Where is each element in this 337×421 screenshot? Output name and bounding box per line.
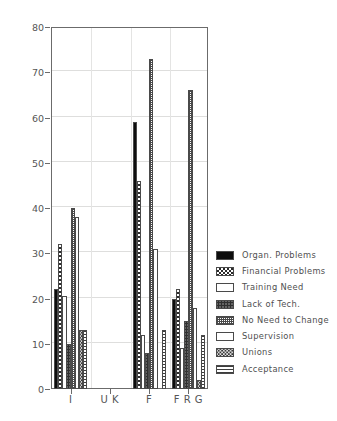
legend-label: Financial Problems	[242, 267, 326, 276]
y-axis-tick-label: 60	[14, 114, 44, 123]
y-axis-tick-label: 20	[14, 295, 44, 304]
legend-item[interactable]: Training Need	[216, 280, 336, 296]
legend-label: Organ. Problems	[242, 251, 316, 260]
y-axis-tick-label: 70	[14, 68, 44, 77]
legend-item[interactable]: Acceptance	[216, 361, 336, 377]
legend: Organ. ProblemsFinancial ProblemsTrainin…	[216, 247, 336, 377]
bar-series-container	[51, 27, 208, 389]
y-axis-tick-mark	[45, 118, 50, 119]
legend-item[interactable]: Lack of Tech.	[216, 296, 336, 312]
y-axis-tick-label: 40	[14, 204, 44, 213]
legend-swatch	[216, 348, 234, 357]
legend-swatch	[216, 332, 234, 341]
legend-swatch	[216, 300, 234, 309]
y-axis-tick-label: 80	[14, 23, 44, 32]
y-axis-tick-mark	[45, 253, 50, 254]
legend-label: No Need to Change	[242, 316, 329, 325]
y-axis-tick-mark	[45, 299, 50, 300]
y-axis-tick-mark	[45, 72, 50, 73]
bar	[193, 308, 197, 389]
legend-label: Training Need	[242, 283, 304, 292]
legend-item[interactable]: No Need to Change	[216, 312, 336, 328]
y-axis-tick-mark	[45, 163, 50, 164]
y-axis-tick-mark	[45, 389, 50, 390]
y-axis-tick-label: 10	[14, 340, 44, 349]
legend-item[interactable]: Unions	[216, 345, 336, 361]
x-axis-tick-label: F R G	[163, 394, 213, 406]
legend-label: Supervision	[242, 332, 294, 341]
y-axis-tick-mark	[45, 27, 50, 28]
legend-swatch	[216, 283, 234, 292]
legend-swatch	[216, 316, 234, 325]
y-axis-tick-label: 30	[14, 249, 44, 258]
legend-swatch	[216, 365, 234, 374]
legend-label: Lack of Tech.	[242, 300, 300, 309]
bar	[83, 330, 87, 389]
legend-swatch	[216, 267, 234, 276]
legend-label: Acceptance	[242, 365, 294, 374]
y-axis-tick-label: 50	[14, 159, 44, 168]
legend-item[interactable]: Supervision	[216, 328, 336, 344]
legend-label: Unions	[242, 348, 272, 357]
legend-item[interactable]: Organ. Problems	[216, 247, 336, 263]
legend-swatch	[216, 251, 234, 260]
bar	[201, 335, 205, 389]
y-axis-tick-mark	[45, 344, 50, 345]
x-axis-labels: IU KFF R G	[0, 394, 337, 410]
bar	[162, 330, 166, 389]
bar	[153, 249, 157, 389]
legend-item[interactable]: Financial Problems	[216, 263, 336, 279]
y-axis-tick-label: 0	[14, 385, 44, 394]
chart-root: IU KFF R G 01020304050607080 Organ. Prob…	[0, 0, 337, 421]
y-axis-tick-mark	[45, 208, 50, 209]
